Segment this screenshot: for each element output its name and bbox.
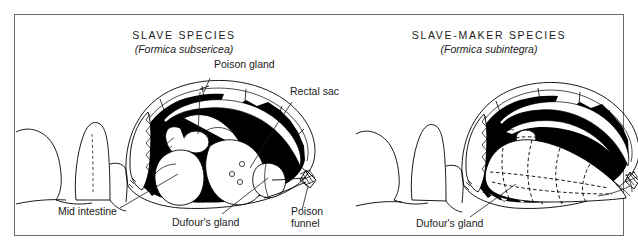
anatomy-drawing-slave-maker-species	[354, 14, 624, 236]
leader-poison-gland	[204, 78, 210, 92]
callout-poison-funnel-line1: Poison	[291, 206, 323, 218]
callout-dufours-gland: Dufour's gland	[172, 217, 239, 229]
callout-rectal-sac: Rectal sac	[290, 86, 339, 98]
figure-root: SLAVE SPECIES (Formica subsericea)	[0, 0, 638, 252]
panel-slave-species: SLAVE SPECIES (Formica subsericea)	[14, 14, 354, 236]
callout-poison-gland: Poison gland	[214, 59, 275, 71]
callout-poison-funnel-line2: funnel	[291, 218, 320, 230]
callout-mid-intestine: Mid intestine	[58, 206, 117, 218]
leader-rectal-sac	[284, 102, 292, 114]
callout-dufours-gland-right: Dufour's gland	[416, 218, 483, 230]
panel-slave-maker-species: SLAVE-MAKER SPECIES (Formica subintegra)	[354, 14, 624, 236]
anatomy-drawing-slave-species	[14, 14, 354, 236]
